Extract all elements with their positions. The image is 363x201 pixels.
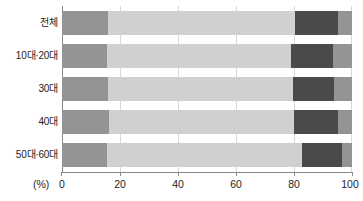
x-tick-label-100: 100 xyxy=(341,178,359,190)
bar-row xyxy=(62,44,352,68)
x-axis-line xyxy=(61,172,353,173)
bar-segment-3 xyxy=(291,44,333,68)
x-tick-100 xyxy=(352,172,353,176)
stacked-bar-chart: 전체 10대·20대 30대 40대 50대·60대 xyxy=(0,0,363,201)
bar-segment-2 xyxy=(109,110,294,134)
y-axis-category-labels: 전체 10대·20대 30대 40대 50대·60대 xyxy=(0,6,58,172)
bar-segment-2 xyxy=(107,44,291,68)
category-label-3: 40대 xyxy=(2,110,58,134)
bar-row xyxy=(62,11,352,35)
x-tick-label-0: 0 xyxy=(59,178,65,190)
x-tick-label-60: 60 xyxy=(230,178,242,190)
bar-track-0 xyxy=(62,11,352,35)
bar-track-2 xyxy=(62,77,352,101)
bar-segment-3 xyxy=(295,11,338,35)
bar-segment-4 xyxy=(333,44,352,68)
category-label-1: 10대·20대 xyxy=(2,44,58,68)
x-tick-label-80: 80 xyxy=(288,178,300,190)
x-tick-0 xyxy=(61,172,62,176)
bar-segment-3 xyxy=(293,77,334,101)
plot-area xyxy=(62,6,352,172)
bar-segment-3 xyxy=(294,110,338,134)
bar-segment-2 xyxy=(108,11,295,35)
category-label-4: 50대·60대 xyxy=(2,143,58,167)
x-tick-label-20: 20 xyxy=(114,178,126,190)
bar-track-1 xyxy=(62,44,352,68)
category-label-0: 전체 xyxy=(2,11,58,35)
bar-segment-4 xyxy=(342,143,352,167)
category-label-2: 30대 xyxy=(2,77,58,101)
x-axis-unit-label: (%) xyxy=(33,178,49,190)
bar-segment-3 xyxy=(302,143,342,167)
x-tick-label-40: 40 xyxy=(172,178,184,190)
bar-row xyxy=(62,77,352,101)
bar-segment-4 xyxy=(338,110,352,134)
x-tick-40 xyxy=(178,172,179,176)
bar-segment-4 xyxy=(334,77,352,101)
x-tick-80 xyxy=(294,172,295,176)
bar-track-4 xyxy=(62,143,352,167)
bar-segment-2 xyxy=(108,77,293,101)
bar-segment-1 xyxy=(62,143,107,167)
x-tick-20 xyxy=(120,172,121,176)
bar-segment-1 xyxy=(62,77,108,101)
bar-segment-1 xyxy=(62,11,108,35)
bar-track-3 xyxy=(62,110,352,134)
x-tick-60 xyxy=(236,172,237,176)
bar-row xyxy=(62,143,352,167)
bar-segment-4 xyxy=(338,11,352,35)
bar-row xyxy=(62,110,352,134)
bar-segment-1 xyxy=(62,110,109,134)
bar-segment-2 xyxy=(107,143,302,167)
bar-segment-1 xyxy=(62,44,107,68)
